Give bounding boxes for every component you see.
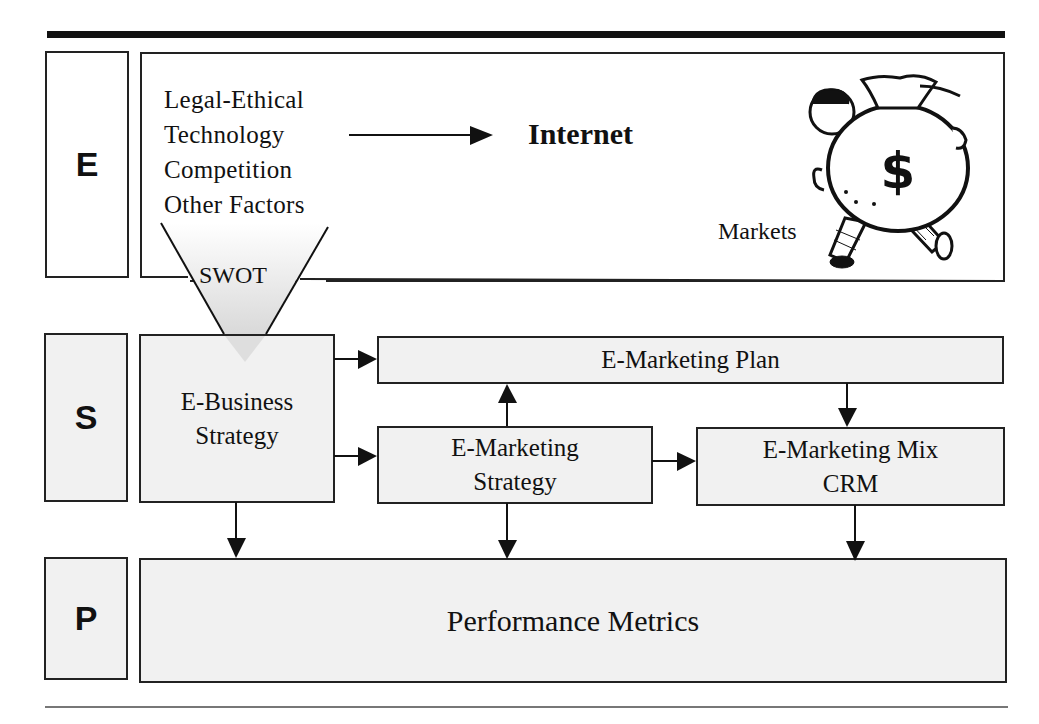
- bottom-rule: [45, 706, 1008, 708]
- arrow-ebusiness-to-performance-icon: [227, 502, 246, 558]
- arrow-mix-to-performance-icon: [846, 505, 865, 561]
- arrow-ebusiness-to-strategy-icon: [334, 447, 377, 466]
- connector-overlay: $: [0, 0, 1039, 724]
- arrow-plan-to-mix-icon: [838, 383, 857, 427]
- arrow-strategy-to-mix-icon: [652, 452, 696, 471]
- arrow-strategy-to-performance-icon: [498, 503, 517, 559]
- swot-funnel-icon: [140, 223, 1005, 362]
- swot-label: SWOT: [199, 262, 267, 289]
- money-bag-man-icon: $: [810, 76, 968, 268]
- arrow-ebusiness-to-plan-icon: [334, 350, 377, 369]
- svg-text:$: $: [881, 142, 916, 200]
- arrow-to-internet-icon: [349, 126, 493, 145]
- arrow-strategy-to-plan-icon: [498, 384, 517, 426]
